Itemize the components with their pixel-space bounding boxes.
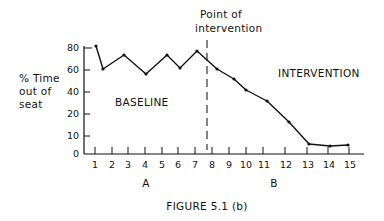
svg-text:13: 13	[302, 159, 314, 170]
svg-text:15: 15	[344, 159, 356, 170]
intervention-label: INTERVENTION	[278, 67, 360, 79]
x-tick-labels: 1 2 3 4 5 6 7 8 9 10 11 12 13 14 15	[92, 159, 356, 170]
svg-text:0: 0	[73, 148, 79, 159]
svg-text:out of: out of	[19, 85, 51, 97]
svg-text:12: 12	[280, 159, 292, 170]
svg-text:3: 3	[125, 159, 131, 170]
svg-text:60: 60	[67, 64, 79, 75]
svg-text:7: 7	[192, 159, 198, 170]
svg-text:20: 20	[67, 108, 79, 119]
svg-text:40: 40	[67, 86, 79, 97]
svg-text:14: 14	[323, 159, 335, 170]
svg-text:80: 80	[67, 42, 79, 53]
x-ticks	[95, 147, 349, 154]
y-axis-label: % Time out of seat	[19, 72, 60, 110]
svg-text:Point of: Point of	[200, 8, 242, 20]
phase-a-label: A	[142, 177, 150, 189]
line-chart: 80 60 40 20 10 0 1 2 3 4 5 6 7 8 9 10 11	[0, 0, 384, 221]
svg-text:10: 10	[67, 130, 79, 141]
svg-text:6: 6	[175, 159, 181, 170]
svg-text:intervention: intervention	[195, 22, 263, 34]
svg-text:9: 9	[226, 159, 232, 170]
svg-text:11: 11	[258, 159, 270, 170]
y-tick-labels: 80 60 40 20 10 0	[67, 42, 79, 159]
svg-text:5: 5	[159, 159, 165, 170]
svg-text:seat: seat	[19, 98, 43, 110]
svg-text:4: 4	[142, 159, 148, 170]
svg-text:2: 2	[109, 159, 115, 170]
svg-text:% Time: % Time	[19, 72, 60, 84]
baseline-label: BASELINE	[115, 96, 169, 108]
y-ticks	[84, 48, 92, 136]
svg-text:1: 1	[92, 159, 98, 170]
svg-text:8: 8	[209, 159, 215, 170]
intervention-annotation: Point of intervention	[195, 8, 263, 34]
figure-caption: FIGURE 5.1 (b)	[166, 200, 247, 212]
phase-b-label: B	[270, 177, 278, 189]
svg-text:10: 10	[240, 159, 252, 170]
